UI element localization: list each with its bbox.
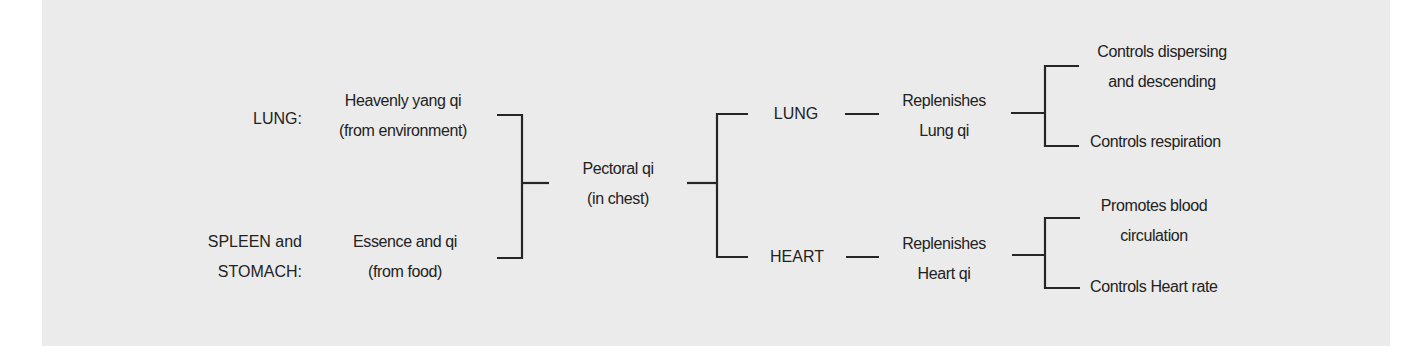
branch-heart-effect-line-1: Replenishes xyxy=(902,228,986,260)
source-lung-organ: LUNG: xyxy=(253,103,302,135)
branch-lung-organ-label: LUNG xyxy=(774,98,818,130)
branch-lung-organ: LUNG xyxy=(774,98,818,130)
heart-function-1-line-1: Promotes blood xyxy=(1101,190,1207,222)
heart-functions-bracket xyxy=(1045,218,1080,288)
source-lung-content: Heavenly yang qi (from environment) xyxy=(339,85,467,147)
source-spleen-organ-line-2: STOMACH: xyxy=(208,256,302,288)
lung-function-2-line-1: Controls respiration xyxy=(1090,126,1221,158)
branch-lung-effect-line-1: Replenishes xyxy=(902,85,986,117)
lung-function-2: Controls respiration xyxy=(1090,126,1221,158)
center-line-1: Pectoral qi xyxy=(582,153,653,185)
branch-heart-organ: HEART xyxy=(770,241,824,273)
center-line-2: (in chest) xyxy=(582,183,653,215)
lung-function-1-line-2: and descending xyxy=(1097,66,1226,98)
source-spleen-content-line-1: Essence and qi xyxy=(353,226,457,258)
source-spleen-stomach-content: Essence and qi (from food) xyxy=(353,226,457,288)
branch-lung-effect-line-2: Lung qi xyxy=(902,115,986,147)
source-spleen-organ-line-1: SPLEEN and xyxy=(208,226,302,258)
branches-bracket xyxy=(717,114,748,257)
branch-heart-organ-label: HEART xyxy=(770,241,824,273)
heart-function-2-line-1: Controls Heart rate xyxy=(1090,271,1218,303)
lung-functions-bracket xyxy=(1045,66,1079,146)
source-spleen-stomach-organ: SPLEEN and STOMACH: xyxy=(208,226,302,288)
source-lung-organ-label: LUNG: xyxy=(253,103,302,135)
source-lung-content-line-1: Heavenly yang qi xyxy=(339,85,467,117)
center-pectoral-qi: Pectoral qi (in chest) xyxy=(582,153,653,215)
branch-heart-effect-line-2: Heart qi xyxy=(902,258,986,290)
lung-function-1: Controls dispersing and descending xyxy=(1097,36,1226,98)
source-lung-content-line-2: (from environment) xyxy=(339,115,467,147)
branch-lung-effect: Replenishes Lung qi xyxy=(902,85,986,147)
heart-function-1: Promotes blood circulation xyxy=(1101,190,1207,252)
branch-heart-effect: Replenishes Heart qi xyxy=(902,228,986,290)
heart-function-1-line-2: circulation xyxy=(1101,220,1207,252)
source-spleen-content-line-2: (from food) xyxy=(353,256,457,288)
sources-bracket xyxy=(497,115,522,258)
lung-function-1-line-1: Controls dispersing xyxy=(1097,36,1226,68)
heart-function-2: Controls Heart rate xyxy=(1090,271,1218,303)
